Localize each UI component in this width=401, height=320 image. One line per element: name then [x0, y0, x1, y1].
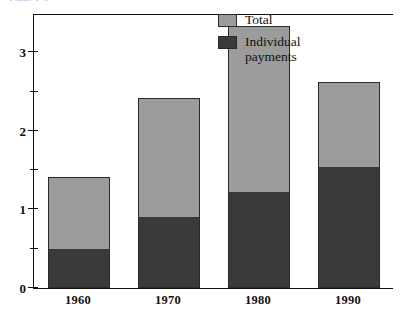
legend-individual-payments-label: Individual payments: [245, 34, 301, 64]
legend-total-label: Total: [245, 12, 273, 27]
clipped-caption: Chart 1-5: [10, 0, 48, 1]
y-tick-minor: [30, 248, 38, 249]
legend-total: Total: [218, 12, 393, 27]
bar-segment-individual-1990: [318, 167, 380, 288]
chart-legend: TotalIndividual payments: [218, 12, 393, 71]
x-axis-tick-label: 1990: [308, 293, 388, 308]
legend-individual-payments: Individual payments: [218, 34, 393, 64]
y-tick-major: [28, 51, 38, 52]
y-axis-tick-label: 3: [6, 46, 26, 59]
x-axis-tick-label: 1960: [38, 293, 118, 308]
y-axis-tick-label: 2: [6, 125, 26, 138]
y-tick-minor: [30, 169, 38, 170]
legend-total-swatch-icon: [218, 14, 237, 27]
y-tick-major: [28, 208, 38, 209]
x-axis-tick-label: 1970: [128, 293, 208, 308]
bar-1960: [48, 177, 110, 288]
y-axis-tick-label: 0: [6, 282, 26, 295]
y-axis-tick-label: 1: [6, 203, 26, 216]
bar-segment-individual-1980: [228, 192, 290, 288]
y-tick-major: [28, 130, 38, 131]
bar-segment-individual-1960: [48, 249, 110, 288]
bar-1970: [138, 98, 200, 288]
y-tick-minor: [30, 91, 38, 92]
y-tick-major: [28, 287, 38, 288]
bar-segment-individual-1970: [138, 217, 200, 288]
bar-1990: [318, 82, 380, 288]
x-axis-tick-label: 1980: [218, 293, 298, 308]
legend-individual-payments-swatch-icon: [218, 36, 237, 49]
bar-chart-figure: Chart 1-5 0123 1960197019801990 TotalInd…: [0, 0, 401, 320]
